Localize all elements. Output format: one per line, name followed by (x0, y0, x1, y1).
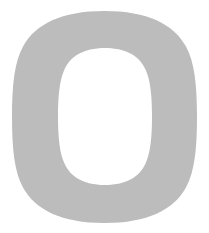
glyph-layer (0, 0, 209, 233)
letter-o-glyph-svg (0, 0, 209, 233)
image-canvas: O (0, 0, 209, 233)
